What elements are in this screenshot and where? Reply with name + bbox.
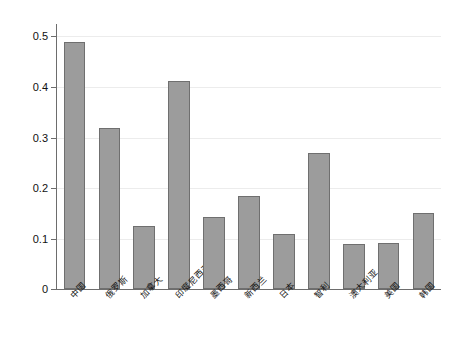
bar — [238, 196, 260, 289]
bar — [99, 128, 121, 289]
bar — [168, 81, 190, 289]
bar — [64, 42, 86, 289]
bars-layer: 中国俄罗斯加拿大印度尼西亚墨西哥新西兰日本智利澳大利亚美国韩国 — [0, 0, 450, 343]
bar — [413, 213, 435, 289]
bar — [308, 153, 330, 289]
bar-chart: 0.5 0.4 0.3 0.2 0.1 0 中国俄罗斯加拿大印度尼西亚墨西哥新西… — [0, 0, 450, 343]
